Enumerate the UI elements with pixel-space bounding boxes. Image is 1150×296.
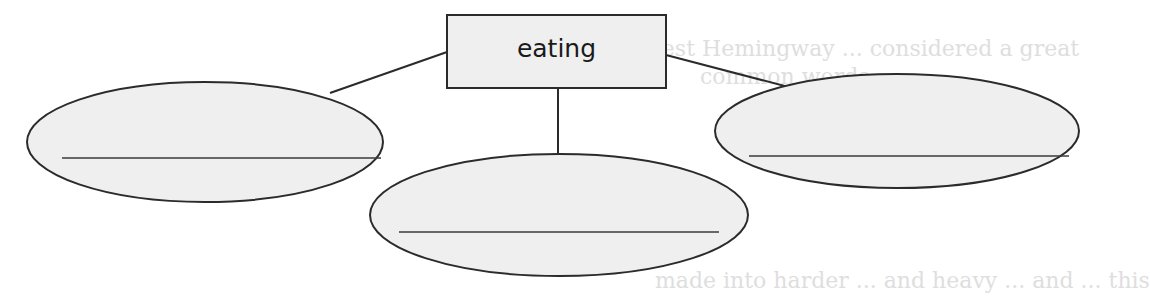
center-concept-label: eating: [447, 15, 666, 88]
branch-ellipse-left: [27, 82, 383, 202]
connector-left: [330, 52, 447, 93]
branch-ellipse-bottom: [370, 154, 748, 276]
branch-ellipse-right: [715, 74, 1079, 188]
connector-right: [666, 55, 800, 90]
